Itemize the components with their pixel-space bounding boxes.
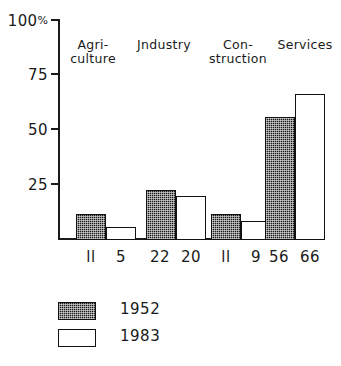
bar-1983-agriculture — [106, 227, 136, 240]
value-label-1952-services: 56 — [264, 248, 294, 266]
bar-1952-construction — [211, 214, 241, 240]
category-label-services: Services — [272, 38, 338, 52]
bar-chart: 100% 75 50 25 Agri- culture Jndustry Con… — [0, 0, 341, 366]
value-label-1952-industry: 22 — [145, 248, 175, 266]
legend-swatch-1952 — [58, 302, 96, 320]
y-tick-label-25: 25 — [2, 176, 48, 194]
value-label-1983-industry: 20 — [176, 248, 206, 266]
legend-label-1983: 1983 — [120, 327, 160, 345]
category-label-agriculture: Agri- culture — [62, 38, 124, 66]
legend-label-1952: 1952 — [120, 300, 160, 318]
y-tick-50 — [51, 128, 59, 130]
y-tick-label-75: 75 — [2, 66, 48, 84]
value-label-1983-services: 66 — [295, 248, 325, 266]
legend-swatch-1983 — [58, 329, 96, 347]
bar-1983-services — [295, 94, 325, 240]
bar-1952-services — [265, 117, 295, 240]
bar-1952-agriculture — [76, 214, 106, 240]
bar-1983-industry — [176, 196, 206, 240]
value-label-1952-construction: ll — [211, 248, 241, 266]
y-tick-100 — [51, 19, 59, 21]
value-label-1983-agriculture: 5 — [106, 248, 136, 266]
y-tick-25 — [51, 183, 59, 185]
percent-sign: % — [38, 14, 48, 27]
category-label-industry: Jndustry — [128, 38, 200, 52]
y-tick-75 — [51, 73, 59, 75]
y-tick-value-100: 100 — [8, 12, 38, 30]
value-label-1952-agriculture: ll — [76, 248, 106, 266]
y-tick-label-100: 100% — [2, 12, 48, 30]
category-label-construction: Con- struction — [202, 38, 274, 66]
bar-1952-industry — [146, 190, 176, 240]
y-tick-label-50: 50 — [2, 121, 48, 139]
